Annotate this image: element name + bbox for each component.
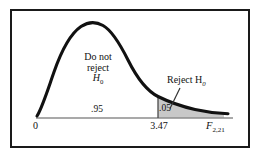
annotation-do-not-reject-line1: Do not — [68, 52, 128, 63]
null-hypothesis-subscript: 0 — [100, 78, 103, 85]
annotation-do-not-reject-line3: H0 — [68, 73, 128, 85]
density-curve — [37, 23, 228, 116]
x-axis-title-subscript: 2,21 — [212, 126, 224, 134]
axis-tick-label-critical-value: 3.47 — [140, 121, 178, 132]
f-distribution-figure: Do not reject H0 Reject H0 .95 .05 0 3.4… — [0, 0, 264, 162]
axis-tick-label-origin: 0 — [33, 121, 38, 132]
annotation-do-not-reject: Do not reject H0 — [68, 52, 128, 85]
x-axis-title: F2,21 — [206, 120, 225, 135]
area-label-accept-probability: .95 — [84, 105, 110, 115]
distribution-plot — [0, 0, 264, 162]
annotation-reject-subscript: 0 — [202, 80, 205, 87]
area-label-reject-probability: .05 — [159, 104, 179, 114]
annotation-reject: Reject H0 — [167, 75, 206, 87]
null-hypothesis-symbol: H — [93, 72, 100, 83]
annotation-reject-text: Reject H — [167, 74, 202, 85]
